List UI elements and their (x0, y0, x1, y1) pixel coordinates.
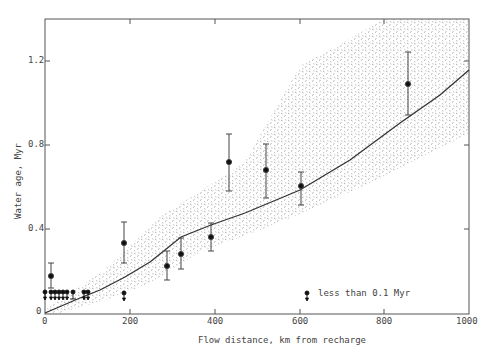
x-tick-200: 200 (122, 316, 138, 326)
x-axis-label: Flow distance, km from recharge (198, 335, 366, 345)
y-tick-1.2: 1.2 (28, 55, 44, 65)
x-tick-1000: 1000 (456, 316, 478, 326)
y-tick-0.4: 0.4 (28, 223, 44, 233)
y-tick-0.8: 0.8 (28, 139, 44, 149)
legend-marker-icon (305, 291, 309, 301)
legend-label: less than 0.1 Myr (318, 288, 410, 298)
y-axis-label: Water age, Myr (13, 143, 23, 219)
x-tick-800: 800 (376, 316, 392, 326)
y-tick-0: 0 (36, 306, 41, 316)
data-point (48, 263, 54, 288)
x-tick-0: 0 (42, 316, 47, 326)
x-tick-400: 400 (207, 316, 223, 326)
x-tick-600: 600 (292, 316, 308, 326)
chart-plot (0, 0, 492, 355)
uncertainty-band (45, 19, 469, 313)
